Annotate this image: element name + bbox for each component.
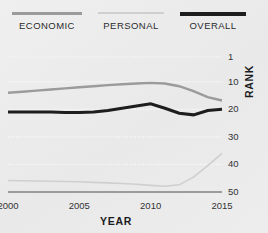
y-axis-title: RANK <box>243 65 255 98</box>
y-tick-label: 10 <box>228 77 239 87</box>
x-tick-label: 2000 <box>0 200 28 211</box>
x-tick-label: 2005 <box>59 200 99 211</box>
y-tick-label: 40 <box>228 159 239 169</box>
gridlines <box>8 57 222 192</box>
y-tick-label: 50 <box>228 187 239 197</box>
y-tick-label: 20 <box>228 104 239 114</box>
series-line-economic[interactable] <box>8 83 222 101</box>
y-tick-label: 30 <box>228 132 239 142</box>
plot-svg <box>0 0 268 233</box>
chart-canvas: ECONOMIC PERSONAL OVERALL 11020304050 20… <box>0 0 268 233</box>
x-tick-label: 2015 <box>202 200 242 211</box>
plot-area: 11020304050 2000200520102015 YEAR RANK <box>0 0 268 233</box>
series-line-personal[interactable] <box>8 153 222 186</box>
x-axis-title: YEAR <box>0 215 232 227</box>
y-tick-label: 1 <box>228 52 233 62</box>
series-lines <box>8 83 222 186</box>
x-tick-label: 2010 <box>131 200 171 211</box>
